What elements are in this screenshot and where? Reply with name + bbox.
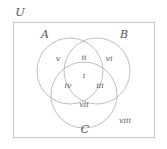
universe-label: U — [15, 7, 25, 19]
universe-rectangle — [14, 23, 155, 138]
region-a-only-label: v — [56, 55, 61, 63]
region-outside-label: viii — [119, 117, 131, 125]
set-b-label: B — [120, 29, 128, 40]
region-bc-label: iii — [96, 82, 104, 90]
set-a-circle — [37, 38, 103, 104]
region-ac-label: iv — [64, 82, 71, 90]
region-center-abc-label: i — [83, 72, 86, 80]
set-c-label: C — [81, 124, 89, 135]
set-b-circle — [64, 38, 130, 104]
region-b-only-label: vi — [105, 55, 112, 63]
venn-diagram: U A B C i ii iii iv v vi vii viii — [0, 0, 167, 149]
region-ab-label: ii — [81, 54, 86, 62]
region-c-only-label: vii — [79, 101, 89, 109]
set-a-label: A — [41, 29, 49, 40]
